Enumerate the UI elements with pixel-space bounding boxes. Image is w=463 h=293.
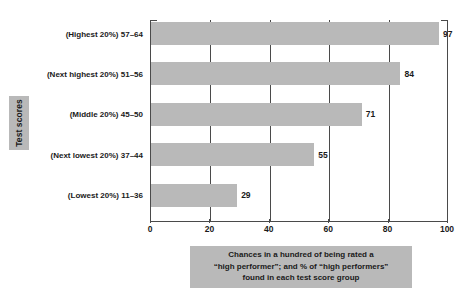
top-left-tick-mark [151, 20, 157, 21]
x-tick-label: 40 [264, 224, 273, 234]
x-tick-label: 0 [148, 224, 153, 234]
x-tick-mark [447, 219, 448, 223]
category-label: (Middle 20%) 45–50 [70, 110, 143, 119]
y-axis-title: Test scores [9, 96, 29, 150]
caption-line-1: Chances in a hundred of being rated a [196, 249, 406, 261]
x-tick-mark [328, 219, 329, 223]
category-label: (Highest 20%) 57–64 [66, 29, 143, 38]
x-tick-label: 100 [440, 224, 454, 234]
x-tick-mark [269, 219, 270, 223]
bar [151, 184, 237, 207]
bar-value-label: 84 [404, 69, 413, 79]
bar [151, 143, 314, 166]
category-label: (Next lowest 20%) 37–44 [51, 150, 144, 159]
caption-line-3: found in each test score group [196, 272, 406, 284]
bar-value-label: 55 [318, 150, 327, 160]
category-axis-labels: (Highest 20%) 57–64(Next highest 20%) 51… [36, 20, 147, 222]
bar-value-label: 97 [443, 29, 452, 39]
caption-line-2: “high performer”; and % of “high perform… [196, 261, 406, 273]
x-tick-mark [209, 219, 210, 223]
plot-area: 9784715529 [150, 20, 448, 222]
x-tick-label: 80 [383, 224, 392, 234]
top-right-tick-mark [441, 20, 447, 21]
x-tick-mark [150, 219, 151, 223]
bar [151, 103, 362, 126]
y-axis-title-label: Test scores [14, 99, 24, 147]
bar-value-label: 29 [241, 190, 250, 200]
chart-caption: Chances in a hundred of being rated a “h… [190, 246, 412, 288]
gridline [389, 20, 390, 221]
x-tick-label: 60 [323, 224, 332, 234]
category-label: (Lowest 20%) 11–36 [68, 191, 143, 200]
category-label: (Next highest 20%) 51–56 [47, 69, 143, 78]
bar [151, 62, 400, 85]
x-tick-mark [388, 219, 389, 223]
bar-value-label: 71 [366, 109, 375, 119]
x-tick-label: 20 [205, 224, 214, 234]
x-axis-tick-labels: 020406080100 [150, 224, 448, 238]
bar [151, 22, 439, 45]
